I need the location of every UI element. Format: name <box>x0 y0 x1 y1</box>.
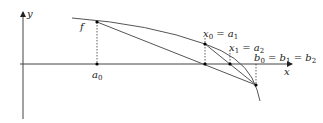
point-x0-curve <box>203 42 206 45</box>
function-label: f <box>79 21 86 32</box>
point-x1-axis <box>228 62 231 65</box>
label-x0-a1: x0 = a1 <box>203 28 238 41</box>
point-a0-curve <box>95 20 98 23</box>
point-a0-axis <box>95 62 98 65</box>
point-b0-curve <box>254 83 257 86</box>
label-a0: a0 <box>92 69 102 82</box>
point-x0-axis <box>203 62 206 65</box>
diagram-canvas: y x f a0 x0 = a1 x1 = a2 b0 = b1 = b2 <box>0 0 323 123</box>
x-axis-label: x <box>284 66 290 77</box>
y-axis-label: y <box>26 8 33 19</box>
